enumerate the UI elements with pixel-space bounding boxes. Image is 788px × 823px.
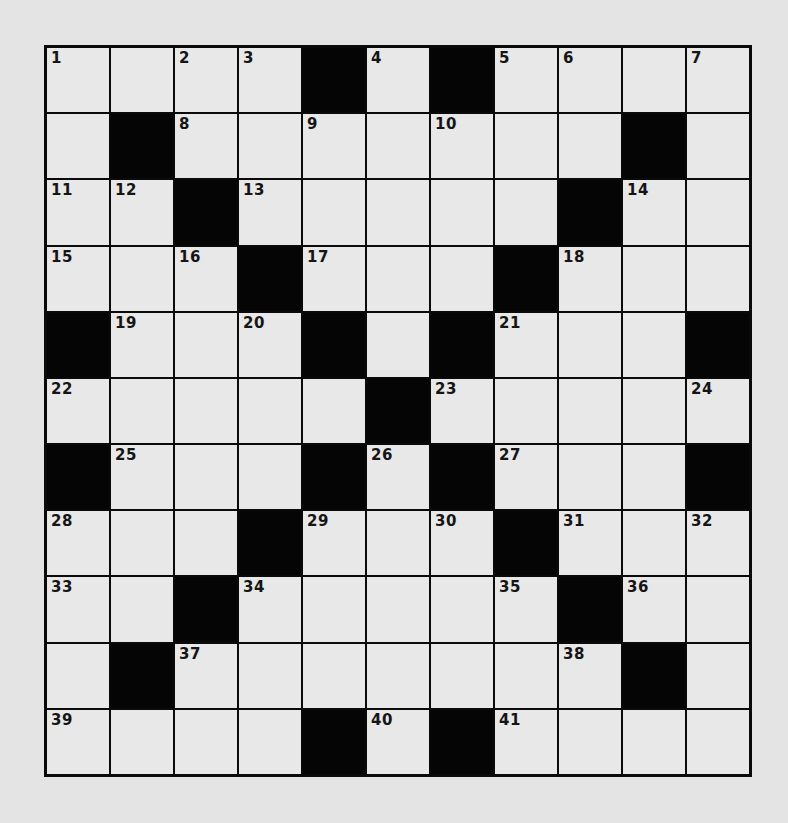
crossword-cell[interactable] — [687, 114, 749, 178]
crossword-cell[interactable]: 25 — [111, 445, 173, 509]
crossword-cell[interactable]: 16 — [175, 247, 237, 311]
crossword-cell[interactable]: 35 — [495, 577, 557, 641]
crossword-cell[interactable] — [47, 644, 109, 708]
crossword-cell[interactable]: 39 — [47, 710, 109, 774]
crossword-cell[interactable] — [623, 445, 685, 509]
crossword-cell[interactable]: 3 — [239, 48, 301, 112]
crossword-cell[interactable] — [687, 710, 749, 774]
crossword-cell[interactable] — [431, 644, 493, 708]
crossword-cell[interactable] — [303, 180, 365, 244]
crossword-cell[interactable]: 28 — [47, 511, 109, 575]
crossword-cell[interactable] — [495, 180, 557, 244]
crossword-cell[interactable] — [239, 445, 301, 509]
crossword-cell[interactable]: 12 — [111, 180, 173, 244]
crossword-cell[interactable]: 13 — [239, 180, 301, 244]
crossword-cell[interactable]: 40 — [367, 710, 429, 774]
crossword-cell[interactable]: 8 — [175, 114, 237, 178]
crossword-cell[interactable] — [495, 379, 557, 443]
crossword-cell[interactable]: 37 — [175, 644, 237, 708]
crossword-cell[interactable] — [175, 511, 237, 575]
crossword-cell[interactable]: 15 — [47, 247, 109, 311]
crossword-cell[interactable] — [303, 379, 365, 443]
crossword-cell[interactable]: 2 — [175, 48, 237, 112]
crossword-cell[interactable] — [367, 180, 429, 244]
crossword-cell[interactable]: 21 — [495, 313, 557, 377]
crossword-cell[interactable] — [367, 247, 429, 311]
crossword-cell[interactable] — [175, 313, 237, 377]
crossword-cell[interactable]: 20 — [239, 313, 301, 377]
crossword-cell[interactable] — [239, 710, 301, 774]
crossword-cell[interactable]: 38 — [559, 644, 621, 708]
crossword-cell[interactable] — [495, 114, 557, 178]
crossword-cell[interactable] — [623, 379, 685, 443]
clue-number: 16 — [179, 250, 201, 265]
crossword-cell[interactable]: 31 — [559, 511, 621, 575]
crossword-cell[interactable]: 17 — [303, 247, 365, 311]
crossword-cell[interactable] — [367, 313, 429, 377]
crossword-cell[interactable] — [111, 710, 173, 774]
crossword-cell[interactable]: 41 — [495, 710, 557, 774]
crossword-cell[interactable] — [111, 247, 173, 311]
crossword-cell[interactable] — [687, 644, 749, 708]
crossword-cell[interactable]: 29 — [303, 511, 365, 575]
crossword-cell[interactable] — [687, 577, 749, 641]
crossword-cell[interactable]: 33 — [47, 577, 109, 641]
crossword-cell[interactable]: 24 — [687, 379, 749, 443]
crossword-cell[interactable]: 5 — [495, 48, 557, 112]
crossword-cell[interactable]: 18 — [559, 247, 621, 311]
crossword-cell[interactable] — [175, 710, 237, 774]
crossword-cell[interactable] — [559, 313, 621, 377]
crossword-cell[interactable]: 19 — [111, 313, 173, 377]
crossword-cell[interactable] — [111, 577, 173, 641]
crossword-cell[interactable]: 34 — [239, 577, 301, 641]
crossword-cell[interactable]: 14 — [623, 180, 685, 244]
crossword-cell[interactable] — [111, 511, 173, 575]
crossword-cell[interactable]: 27 — [495, 445, 557, 509]
crossword-cell[interactable]: 23 — [431, 379, 493, 443]
crossword-cell[interactable]: 26 — [367, 445, 429, 509]
crossword-cell[interactable] — [367, 577, 429, 641]
crossword-cell[interactable] — [111, 48, 173, 112]
crossword-cell[interactable] — [239, 379, 301, 443]
crossword-cell[interactable] — [239, 644, 301, 708]
crossword-cell[interactable] — [687, 247, 749, 311]
crossword-cell[interactable]: 36 — [623, 577, 685, 641]
crossword-cell[interactable] — [175, 379, 237, 443]
crossword-cell[interactable]: 11 — [47, 180, 109, 244]
crossword-cell[interactable]: 7 — [687, 48, 749, 112]
crossword-cell[interactable] — [559, 379, 621, 443]
crossword-cell[interactable]: 32 — [687, 511, 749, 575]
crossword-cell[interactable]: 4 — [367, 48, 429, 112]
crossword-cell[interactable]: 1 — [47, 48, 109, 112]
crossword-cell[interactable]: 6 — [559, 48, 621, 112]
crossword-cell[interactable] — [431, 577, 493, 641]
crossword-cell[interactable]: 10 — [431, 114, 493, 178]
crossword-cell[interactable] — [495, 644, 557, 708]
black-square — [623, 114, 685, 178]
crossword-cell[interactable] — [623, 511, 685, 575]
crossword-cell[interactable] — [175, 445, 237, 509]
crossword-cell[interactable]: 9 — [303, 114, 365, 178]
crossword-cell[interactable] — [239, 114, 301, 178]
clue-number: 10 — [435, 117, 457, 132]
black-square — [623, 644, 685, 708]
crossword-cell[interactable] — [623, 48, 685, 112]
crossword-cell[interactable] — [367, 511, 429, 575]
crossword-cell[interactable] — [303, 644, 365, 708]
crossword-cell[interactable] — [367, 644, 429, 708]
crossword-cell[interactable] — [559, 114, 621, 178]
crossword-cell[interactable] — [431, 247, 493, 311]
crossword-cell[interactable] — [559, 445, 621, 509]
crossword-cell[interactable] — [559, 710, 621, 774]
crossword-cell[interactable] — [623, 710, 685, 774]
crossword-cell[interactable]: 30 — [431, 511, 493, 575]
crossword-cell[interactable] — [111, 379, 173, 443]
crossword-cell[interactable] — [47, 114, 109, 178]
crossword-cell[interactable] — [303, 577, 365, 641]
crossword-cell[interactable] — [623, 313, 685, 377]
crossword-cell[interactable] — [623, 247, 685, 311]
crossword-cell[interactable] — [687, 180, 749, 244]
crossword-cell[interactable] — [367, 114, 429, 178]
crossword-cell[interactable] — [431, 180, 493, 244]
crossword-cell[interactable]: 22 — [47, 379, 109, 443]
